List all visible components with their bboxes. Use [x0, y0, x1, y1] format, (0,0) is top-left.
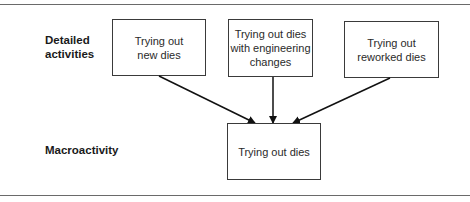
label-macroactivity: Macroactivity — [45, 143, 119, 157]
arrow-reworked-dies — [293, 78, 390, 123]
arrow-new-dies — [159, 76, 255, 123]
bottom-rule — [0, 195, 470, 196]
box-trying-out-dies: Trying out dies — [227, 123, 321, 180]
